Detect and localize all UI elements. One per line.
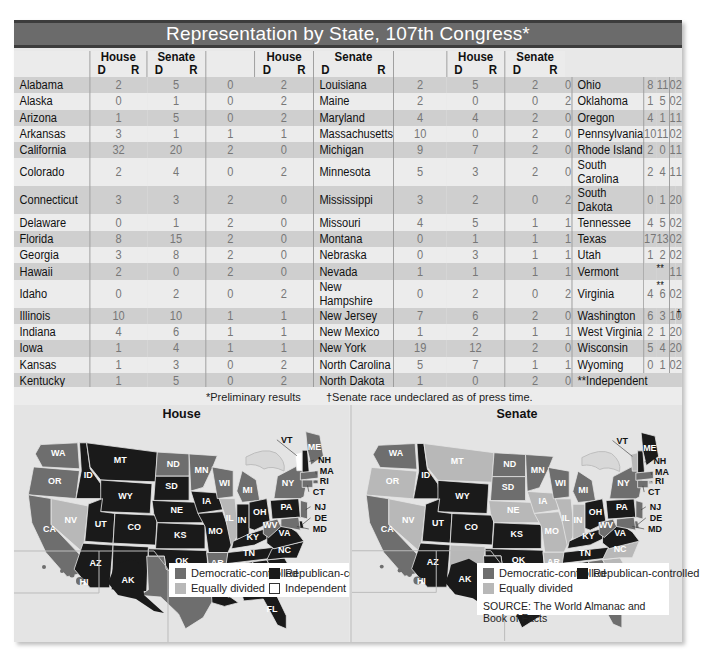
state-fl [242,593,286,628]
house-d: 0 [90,280,147,308]
senate-r: 2 [255,280,314,308]
senate-d: 1 [505,263,565,279]
house-r: 2 [656,247,669,263]
state-name: Vermont [572,263,644,279]
state-name: Nevada [313,263,393,279]
senate-r: 1 [565,231,572,247]
state-label: OH [253,507,267,517]
house-r: 5 [446,77,505,93]
state-label: HI [417,576,426,586]
state-name: Nebraska [313,247,393,263]
senate-d: 2 [505,158,565,186]
house-d: 1 [644,247,657,263]
table-row: Georgia3820Nebraska0311Utah1202 [14,247,682,263]
state-name: Hawaii [14,263,90,279]
state-name: Maryland [313,110,393,126]
state-name: New York [313,340,393,356]
house-map-panel: House WAORCANVIDMTWYUTCOAZNMNDSDNEKSOKTX… [14,405,349,642]
great-lakes-icon [582,451,620,471]
senate-r: 2 [255,77,314,93]
state-label: HI [80,577,89,587]
table-row: Delaware0120Missouri4511Tennessee4502 [14,214,682,230]
state-label: ID [84,470,94,480]
r-header: R [297,64,305,77]
table-row: Colorado2402Minnesota5320South Carolina2… [14,158,682,186]
state-name: Illinois [14,308,90,324]
state-label: NE [170,505,183,515]
state-label: MO [545,526,559,536]
senate-r: 0 [565,126,572,142]
senate-d: 2 [505,77,565,93]
state-label: RI [655,476,664,486]
state-label: MD [648,524,662,534]
senate-d: 2 [505,142,565,158]
state-label: AZ [427,557,439,567]
r-header: R [377,64,385,77]
senate-d: 0 [205,280,254,308]
state-name: Michigan [313,142,393,158]
house-d: 1 [644,93,657,109]
senate-r: 0 [565,77,572,93]
table-row: Arizona1502Maryland4420Oregon4111 [14,110,682,126]
legend-label: Equally divided [191,582,265,594]
r-header: R [489,64,497,77]
house-d: 2 [393,77,446,93]
state-label: WV [599,520,613,530]
senate-d: 2 [669,324,676,340]
state-label: NV [64,515,77,525]
state-name: South Carolina [572,158,644,186]
state-label: PA [280,502,292,512]
house-d: 4 [644,214,657,230]
state-label: ID [421,471,430,481]
state-label: IA [202,496,212,506]
senate-d: 2 [205,231,254,247]
senate-d: 2 [505,308,565,324]
state-name: New Hampshire [313,280,393,308]
legend-equal: Equally divided [483,582,573,594]
senate-r: 2 [676,247,682,263]
house-map: WAORCANVIDMTWYUTCOAZNMNDSDNEKSOKTXMNIAMO… [14,405,349,642]
house-r: 1 [656,324,669,340]
equal-swatch-icon [175,583,186,594]
state-nj [300,500,307,519]
state-name: North Carolina [313,357,393,373]
house-d: 9 [393,142,446,158]
state-name: Missouri [313,214,393,230]
house-d: 6 [644,308,657,324]
house-d: 19 [393,340,446,356]
state-ri [313,480,318,484]
house-d: 0 [393,247,446,263]
house-d: 17 [644,231,657,247]
state-name: Washington [572,308,644,324]
state-label: NE [507,505,519,515]
legend-label: Republican-controlled [593,567,699,579]
house-r: 2 [446,280,505,308]
undeclared-marker: † [676,308,681,319]
senate-r: 0 [565,110,572,126]
house-r: 1 [656,110,669,126]
house-r: 3 [446,247,505,263]
house-r: 0 [446,93,505,109]
house-d: 8 [644,77,657,93]
house-d: 0 [393,280,446,308]
d-header: D [155,64,163,77]
house-d: 2 [90,263,147,279]
house-r: 15 [147,231,205,247]
table-row: Illinois101011New Jersey7620Washington63… [14,308,682,324]
senate-r: 1 [565,357,572,373]
state-name: Alaska [14,93,90,109]
senate-d: 0 [505,186,565,214]
state-label: DE [315,513,328,523]
senate-d: 1 [669,158,676,186]
senate-d: 1 [669,263,676,279]
state-label: NH [653,456,666,466]
state-label: IL [562,513,570,523]
state-name: Massachusetts [313,126,393,142]
state-label: MI [578,485,588,495]
state-name: Maine [313,93,393,109]
state-label: NJ [315,502,327,512]
state-name: West Virginia [572,324,644,340]
senate-d: 0 [669,214,676,230]
state-ri [648,480,653,484]
house-d: 1 [393,324,446,340]
